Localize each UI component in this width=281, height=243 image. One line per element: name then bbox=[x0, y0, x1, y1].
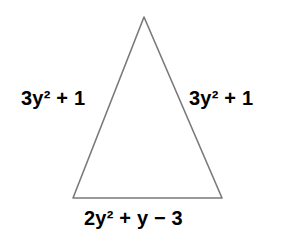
figure-canvas: 3y² + 1 3y² + 1 2y² + y − 3 bbox=[0, 0, 281, 243]
right-side-label: 3y² + 1 bbox=[189, 88, 253, 108]
left-side-label: 3y² + 1 bbox=[21, 88, 85, 108]
base-side-label: 2y² + y − 3 bbox=[84, 208, 183, 228]
